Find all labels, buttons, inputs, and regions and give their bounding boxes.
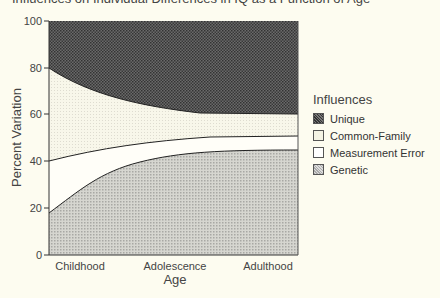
legend-title: Influences	[313, 92, 425, 107]
x-tick-adolescence: Adolescence	[144, 260, 207, 272]
x-axis-label: Age	[0, 272, 350, 287]
y-tick-0: 0	[36, 249, 42, 261]
y-axis-label: Percent Variation	[9, 88, 24, 188]
legend-item-unique: Unique	[313, 110, 425, 127]
y-tick-100: 100	[24, 15, 42, 27]
common-family-swatch	[313, 130, 324, 141]
legend-item-genetic: Genetic	[313, 161, 425, 178]
legend: Influences Unique Common-Family Measurem…	[313, 92, 425, 178]
unique-swatch	[313, 113, 324, 124]
y-tick-20: 20	[30, 202, 42, 214]
y-tick-80: 80	[30, 62, 42, 74]
legend-item-common-family: Common-Family	[313, 127, 425, 144]
legend-item-measurement-error: Measurement Error	[313, 144, 425, 161]
x-tick-childhood: Childhood	[55, 260, 105, 272]
x-tick-adulthood: Adulthood	[243, 260, 293, 272]
measurement-error-swatch	[313, 147, 324, 158]
y-tick-60: 60	[30, 108, 42, 120]
genetic-swatch	[313, 164, 324, 175]
y-tick-40: 40	[30, 155, 42, 167]
